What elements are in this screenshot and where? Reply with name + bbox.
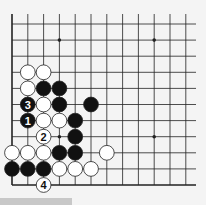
move-number: 4	[41, 179, 48, 191]
white-stone	[36, 113, 51, 128]
black-stone	[68, 129, 83, 144]
white-stone	[52, 113, 67, 128]
white-stone	[36, 97, 51, 112]
white-stone	[36, 65, 51, 80]
star-point	[152, 135, 156, 139]
move-number: 2	[41, 131, 47, 143]
white-stone	[20, 81, 35, 96]
black-stone	[52, 145, 67, 160]
white-stone	[36, 145, 51, 160]
black-stone	[20, 162, 35, 177]
white-stone	[52, 162, 67, 177]
black-stone	[84, 97, 99, 112]
white-stone: 4	[36, 178, 51, 193]
black-stone	[68, 145, 83, 160]
white-stone	[84, 162, 99, 177]
bottom-shadow-bar	[0, 198, 72, 205]
black-stone	[68, 113, 83, 128]
black-stone	[36, 81, 51, 96]
black-stone: 1	[20, 113, 35, 128]
white-stone	[68, 162, 83, 177]
black-stone: 3	[20, 97, 35, 112]
go-board: 3124	[0, 0, 206, 205]
move-number: 1	[25, 115, 31, 127]
white-stone	[5, 145, 20, 160]
star-point	[152, 38, 156, 42]
move-number: 3	[25, 99, 31, 111]
white-stone: 2	[36, 129, 51, 144]
star-point	[58, 135, 62, 139]
black-stone	[5, 162, 20, 177]
white-stone	[99, 145, 114, 160]
black-stone	[36, 162, 51, 177]
white-stone	[20, 65, 35, 80]
white-stone	[20, 145, 35, 160]
black-stone	[52, 81, 67, 96]
black-stone	[52, 97, 67, 112]
star-point	[58, 38, 62, 42]
